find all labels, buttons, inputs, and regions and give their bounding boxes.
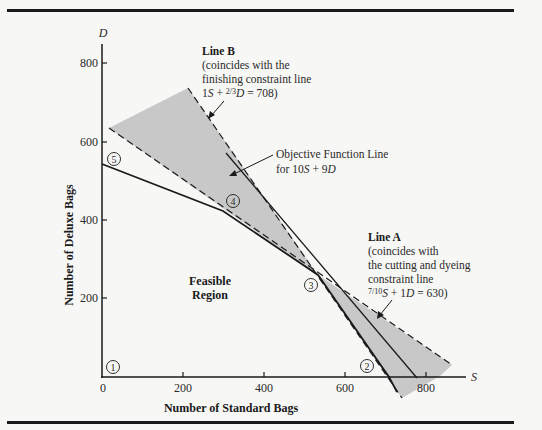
svg-text:(coincides with: (coincides with bbox=[368, 245, 439, 258]
bottom-rule bbox=[7, 421, 514, 424]
svg-text:2: 2 bbox=[365, 361, 370, 372]
line-a-pointer bbox=[380, 300, 392, 315]
y-tick-600: 600 bbox=[80, 135, 98, 149]
line-b-equation: 1S + 2/3D = 708) bbox=[202, 87, 278, 100]
svg-text:Region: Region bbox=[192, 288, 228, 302]
svg-text:(coincides with the: (coincides with the bbox=[202, 59, 290, 72]
x-tick-labels: 0 200 400 600 800 bbox=[100, 381, 435, 395]
chart-figure: 800 600 400 200 0 200 400 600 800 D S Nu… bbox=[0, 0, 542, 430]
line-b-annotation: Line B (coincides with the finishing con… bbox=[202, 45, 311, 100]
top-rule bbox=[7, 9, 514, 12]
svg-text:5: 5 bbox=[112, 154, 117, 165]
svg-text:Line A: Line A bbox=[368, 231, 402, 243]
line-a-equation: 7/10S + 1D = 630) bbox=[368, 287, 448, 300]
x-axis-var: S bbox=[471, 370, 477, 384]
y-tick-800: 800 bbox=[80, 56, 98, 70]
svg-text:4: 4 bbox=[231, 196, 236, 207]
x-axis-title: Number of Standard Bags bbox=[164, 401, 298, 415]
y-tick-200: 200 bbox=[80, 291, 98, 305]
x-tick-600: 600 bbox=[336, 381, 354, 395]
line-a-annotation: Line A (coincides with the cutting and d… bbox=[368, 231, 471, 300]
svg-text:for 10S + 9D: for 10S + 9D bbox=[276, 163, 337, 175]
y-axis-var: D bbox=[98, 26, 108, 40]
y-tick-labels: 800 600 400 200 bbox=[80, 56, 98, 305]
x-tick-800: 800 bbox=[417, 381, 435, 395]
svg-text:the cutting and dyeing: the cutting and dyeing bbox=[368, 259, 471, 272]
line-b bbox=[188, 88, 402, 398]
y-axis-title: Number of Deluxe Bags bbox=[62, 184, 76, 306]
svg-text:Line B: Line B bbox=[202, 45, 235, 57]
feasible-region-label: Feasible Region bbox=[189, 274, 232, 302]
x-tick-400: 400 bbox=[255, 381, 273, 395]
x-tick-200: 200 bbox=[174, 381, 192, 395]
svg-text:3: 3 bbox=[309, 280, 314, 291]
svg-text:Objective Function Line: Objective Function Line bbox=[276, 148, 388, 161]
svg-text:1: 1 bbox=[111, 362, 116, 373]
svg-text:Feasible: Feasible bbox=[189, 274, 232, 288]
objective-annotation: Objective Function Line for 10S + 9D bbox=[276, 148, 388, 175]
y-tick-400: 400 bbox=[80, 213, 98, 227]
point-2: 2 bbox=[361, 360, 374, 373]
svg-text:finishing constraint line: finishing constraint line bbox=[202, 73, 311, 86]
point-5: 5 bbox=[108, 153, 121, 166]
svg-text:constraint line: constraint line bbox=[368, 273, 433, 285]
point-3: 3 bbox=[305, 279, 318, 292]
point-1: 1 bbox=[107, 361, 120, 374]
x-tick-0: 0 bbox=[100, 381, 106, 395]
